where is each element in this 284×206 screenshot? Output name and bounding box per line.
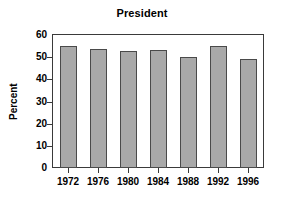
y-axis-tick-mark: [47, 102, 52, 103]
y-axis-tick-mark: [47, 146, 52, 147]
x-axis-tick-mark: [68, 168, 69, 173]
y-axis-tick-label: 30: [25, 97, 47, 107]
x-axis-tick-mark: [248, 168, 249, 173]
bar[interactable]: [180, 57, 197, 168]
bar-column[interactable]: [240, 35, 257, 168]
bar-column[interactable]: [90, 35, 107, 168]
bar[interactable]: [150, 50, 167, 168]
y-axis-tick-mark: [47, 57, 52, 58]
bar[interactable]: [210, 46, 227, 168]
bar[interactable]: [120, 51, 137, 168]
y-axis-tick-label: 10: [25, 141, 47, 151]
bar-column[interactable]: [60, 35, 77, 168]
x-axis-tick-label: 1972: [53, 176, 83, 188]
x-axis-tick-label: 1976: [83, 176, 113, 188]
bar-column[interactable]: [120, 35, 137, 168]
bar[interactable]: [60, 46, 77, 168]
x-axis-tick-mark: [128, 168, 129, 173]
x-axis-tick-mark: [98, 168, 99, 173]
x-axis-tick-label: 1988: [173, 176, 203, 188]
bar[interactable]: [240, 59, 257, 168]
y-axis-tick-mark: [47, 124, 52, 125]
y-axis-tick-label: 0: [25, 163, 47, 173]
bar-column[interactable]: [210, 35, 227, 168]
x-axis-tick-mark: [218, 168, 219, 173]
y-axis-tick-labels: 0102030405060: [22, 0, 47, 206]
y-axis-tick-label: 50: [25, 52, 47, 62]
bar-chart-figure: President Percent 0102030405060 19721976…: [0, 0, 284, 206]
x-axis-tick-label: 1996: [233, 176, 263, 188]
bar-column[interactable]: [180, 35, 197, 168]
y-axis-tick-label: 40: [25, 74, 47, 84]
x-axis-tick-mark: [188, 168, 189, 173]
bar-column[interactable]: [150, 35, 167, 168]
x-axis-tick-label: 1984: [143, 176, 173, 188]
x-axis-tick-label: 1980: [113, 176, 143, 188]
y-axis-tick-label: 20: [25, 119, 47, 129]
x-axis-tick-mark: [158, 168, 159, 173]
y-axis-label: Percent: [6, 62, 20, 142]
y-axis-tick-label: 60: [25, 30, 47, 40]
x-axis-tick-label: 1992: [203, 176, 233, 188]
plot-area: [53, 35, 263, 168]
bar[interactable]: [90, 49, 107, 168]
y-axis-tick-mark: [47, 79, 52, 80]
